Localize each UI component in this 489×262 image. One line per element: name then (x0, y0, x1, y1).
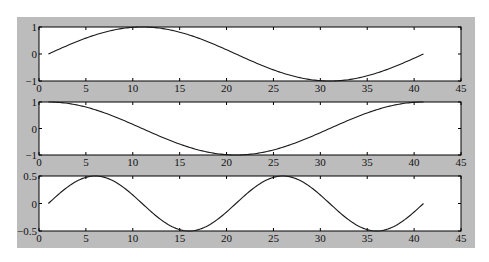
x-tick-label: 35 (362, 232, 374, 244)
x-tick-label: 15 (174, 232, 186, 244)
x-tick-label: 10 (127, 82, 138, 94)
x-tick-label: 5 (83, 156, 89, 168)
x-tick-label: 15 (174, 82, 186, 94)
x-tick-label: 40 (409, 232, 421, 244)
x-tick-label: 35 (362, 156, 374, 168)
x-tick-label: 30 (315, 82, 327, 94)
plot-area (39, 102, 461, 155)
plot-area (39, 176, 461, 231)
x-tick-label: 25 (268, 82, 280, 94)
x-tick-label: 15 (174, 156, 186, 168)
y-tick-label: 0.5 (23, 170, 37, 182)
y-tick-label: 0 (32, 48, 38, 60)
x-tick-label: 0 (36, 82, 42, 94)
y-tick-label: 1 (32, 96, 38, 108)
x-tick-label: 30 (315, 232, 327, 244)
x-tick-label: 0 (36, 232, 42, 244)
x-tick-label: 5 (83, 82, 89, 94)
y-tick-label: 0 (32, 198, 38, 210)
x-tick-label: 40 (409, 82, 421, 94)
x-tick-label: 25 (268, 156, 280, 168)
x-tick-label: 40 (409, 156, 421, 168)
plot-area (39, 27, 461, 81)
x-tick-label: 20 (221, 82, 233, 94)
x-tick-label: 20 (221, 156, 233, 168)
y-tick-label: 1 (32, 21, 38, 33)
figure-canvas: 051015202530354045−101051015202530354045… (17, 17, 475, 248)
x-tick-label: 25 (268, 232, 280, 244)
x-tick-label: 45 (456, 82, 468, 94)
x-tick-label: 35 (362, 82, 374, 94)
x-tick-label: 5 (83, 232, 89, 244)
x-tick-label: 10 (127, 232, 138, 244)
y-tick-label: −1 (25, 75, 37, 87)
x-tick-label: 20 (221, 232, 233, 244)
y-tick-label: −0.5 (17, 225, 37, 237)
x-tick-label: 30 (315, 156, 327, 168)
y-tick-label: −1 (25, 149, 37, 161)
x-tick-label: 10 (127, 156, 138, 168)
x-tick-label: 45 (456, 156, 468, 168)
y-tick-label: 0 (32, 123, 38, 135)
figure: 051015202530354045−101051015202530354045… (17, 17, 475, 248)
x-tick-label: 45 (456, 232, 468, 244)
x-tick-label: 0 (36, 156, 42, 168)
